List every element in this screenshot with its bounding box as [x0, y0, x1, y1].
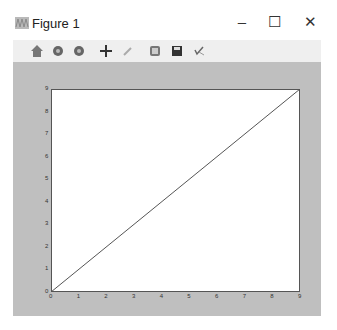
- x-tick-label: 2: [104, 293, 107, 299]
- home-icon: [28, 42, 46, 60]
- x-tick-label: 6: [215, 293, 218, 299]
- x-tick-label: 8: [270, 293, 273, 299]
- edit-icon: [190, 42, 208, 60]
- y-tick-label: 0: [45, 288, 48, 294]
- save-icon: [168, 42, 186, 60]
- y-tick-label: 8: [45, 108, 48, 114]
- x-tick-label: 7: [243, 293, 246, 299]
- y-tick-label: 1: [45, 265, 48, 271]
- y-tick-label: 6: [45, 153, 48, 159]
- back-button[interactable]: [49, 42, 67, 60]
- y-tick-label: 2: [45, 243, 48, 249]
- x-tick-label: 4: [160, 293, 163, 299]
- y-tick-label: 3: [45, 220, 48, 226]
- title-bar: Figure 1 – ☐ ✕: [0, 0, 337, 38]
- y-tick-label: 9: [45, 85, 48, 91]
- forward-icon: [70, 42, 88, 60]
- x-tick-label: 0: [49, 293, 52, 299]
- forward-button[interactable]: [70, 42, 88, 60]
- y-tick-label: 5: [45, 175, 48, 181]
- back-icon: [49, 42, 67, 60]
- navigation-toolbar: [13, 40, 321, 62]
- subplots-button[interactable]: [146, 42, 164, 60]
- home-button[interactable]: [28, 42, 46, 60]
- y-tick-label: 7: [45, 130, 48, 136]
- x-tick-label: 5: [187, 293, 190, 299]
- pan-icon: [97, 42, 115, 60]
- x-tick-label: 9: [298, 293, 301, 299]
- maximize-button[interactable]: ☐: [262, 12, 286, 32]
- subplots-icon: [146, 42, 164, 60]
- window-title: Figure 1: [32, 16, 80, 31]
- zoom-rect-icon: [119, 42, 137, 60]
- matplotlib-icon: [15, 17, 29, 29]
- y-tick-label: 4: [45, 198, 48, 204]
- x-tick-label: 1: [77, 293, 80, 299]
- pan-button[interactable]: [97, 42, 115, 60]
- save-button[interactable]: [168, 42, 186, 60]
- minimize-button[interactable]: –: [230, 12, 254, 32]
- edit-button[interactable]: [190, 42, 208, 60]
- zoom-button[interactable]: [119, 42, 137, 60]
- line-series: [51, 89, 300, 292]
- x-tick-label: 3: [132, 293, 135, 299]
- close-button[interactable]: ✕: [298, 12, 322, 32]
